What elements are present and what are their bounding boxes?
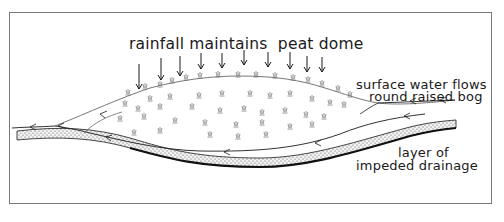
- vegetation-tuft-icon: [268, 92, 273, 98]
- vegetation-tuft-icon: [142, 113, 147, 119]
- vegetation-tuft-icon: [190, 103, 195, 109]
- rain-arrow-icon: [265, 52, 271, 67]
- vegetation-tuft-icon: [336, 85, 341, 91]
- vegetation-tuft-icon: [273, 72, 278, 78]
- vegetation-tuft-icon: [320, 80, 325, 86]
- drainage-layer-label-line2: impeded drainage: [356, 158, 478, 173]
- vegetation-tuft-icon: [234, 121, 239, 127]
- vegetation-tuft-icon: [291, 74, 296, 80]
- vegetation-tuft-icon: [306, 76, 311, 82]
- vegetation-tuft-icon: [248, 90, 253, 96]
- vegetation-tuft-icon: [123, 100, 128, 106]
- vegetation-tuft-icon: [198, 72, 203, 78]
- vegetation-tuft-icon: [173, 117, 178, 123]
- vegetation-tuft-icon: [310, 95, 315, 101]
- rain-arrow-icon: [198, 53, 204, 69]
- vegetation-tuft-icon: [118, 115, 123, 121]
- rain-arrow-icon: [287, 52, 293, 69]
- vegetation-tuft-icon: [322, 113, 327, 119]
- vegetation-tuft-icon: [136, 105, 141, 111]
- vegetation-tuft-icon: [197, 92, 202, 98]
- vegetation-tuft-icon: [184, 74, 189, 80]
- raised-bog-diagram: rainfall maintains peat dome surface wat…: [0, 0, 504, 222]
- rain-arrow-icon: [219, 53, 225, 68]
- vegetation-tuft-icon: [218, 107, 223, 113]
- bog-vegetation: [118, 71, 353, 139]
- vegetation-tuft-icon: [216, 71, 221, 77]
- vegetation-tuft-icon: [310, 121, 315, 127]
- vegetation-tuft-icon: [143, 83, 148, 89]
- vegetation-tuft-icon: [203, 119, 208, 125]
- vegetation-tuft-icon: [236, 133, 241, 139]
- rainfall-label: rainfall maintains peat dome: [129, 35, 364, 53]
- vegetation-tuft-icon: [283, 107, 288, 113]
- vegetation-tuft-icon: [242, 105, 247, 111]
- vegetation-tuft-icon: [264, 131, 269, 137]
- surface-water-label-line2: round raised bog: [369, 89, 483, 104]
- vegetation-tuft-icon: [288, 123, 293, 129]
- rain-arrow-icon: [136, 64, 142, 89]
- vegetation-tuft-icon: [260, 119, 265, 125]
- rain-arrow-icon: [319, 57, 325, 72]
- vegetation-tuft-icon: [132, 129, 137, 135]
- vegetation-tuft-icon: [126, 89, 131, 95]
- vegetation-tuft-icon: [208, 131, 213, 137]
- vegetation-tuft-icon: [158, 127, 163, 133]
- vegetation-tuft-icon: [342, 101, 347, 107]
- rain-arrow-icon: [177, 56, 183, 76]
- vegetation-tuft-icon: [304, 111, 309, 117]
- vegetation-tuft-icon: [288, 90, 293, 96]
- rain-arrow-icon: [304, 56, 310, 72]
- vegetation-tuft-icon: [168, 93, 173, 99]
- vegetation-tuft-icon: [158, 103, 163, 109]
- vegetation-tuft-icon: [220, 90, 225, 96]
- vegetation-tuft-icon: [148, 95, 153, 101]
- vegetation-tuft-icon: [260, 109, 265, 115]
- rain-arrows: [136, 50, 325, 89]
- rain-arrow-icon: [158, 58, 164, 80]
- vegetation-tuft-icon: [328, 99, 333, 105]
